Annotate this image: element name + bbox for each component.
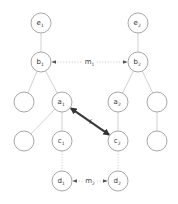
- node-c2: c2: [108, 131, 128, 151]
- node-n_l2: [14, 131, 34, 151]
- node-b1: b1: [31, 52, 51, 72]
- node-n_r2: [147, 131, 167, 151]
- node-c1: c1: [52, 131, 72, 151]
- node-a2: a2: [108, 92, 128, 112]
- node-circle: [147, 131, 167, 151]
- mapping-label-m1: m1: [85, 58, 95, 66]
- mapping-label-m2: m2: [85, 177, 95, 185]
- tree-mapping-diagram: m1m2f e1e2b1b2a1a2c1c2d1d2: [0, 0, 178, 204]
- node-n_r1: [147, 92, 167, 112]
- node-b2: b2: [128, 52, 148, 72]
- mappings-layer: m1m2f: [52, 58, 127, 185]
- node-e2: e2: [128, 13, 148, 33]
- edge-b2-a2: [122, 71, 133, 93]
- node-a1: a1: [52, 92, 72, 112]
- node-n_l1: [14, 92, 34, 112]
- edge-b2-n_r1: [142, 71, 152, 93]
- node-circle: [147, 92, 167, 112]
- node-circle: [14, 92, 34, 112]
- edge-b1-n_l1: [28, 71, 37, 93]
- edge-a1-n_l2: [31, 109, 55, 134]
- node-d2: d2: [108, 171, 128, 191]
- node-circle: [14, 131, 34, 151]
- nodes-layer: e1e2b1b2a1a2c1c2d1d2: [14, 13, 167, 191]
- node-d1: d1: [52, 171, 72, 191]
- node-e1: e1: [31, 13, 51, 33]
- edge-b1-a1: [46, 71, 58, 93]
